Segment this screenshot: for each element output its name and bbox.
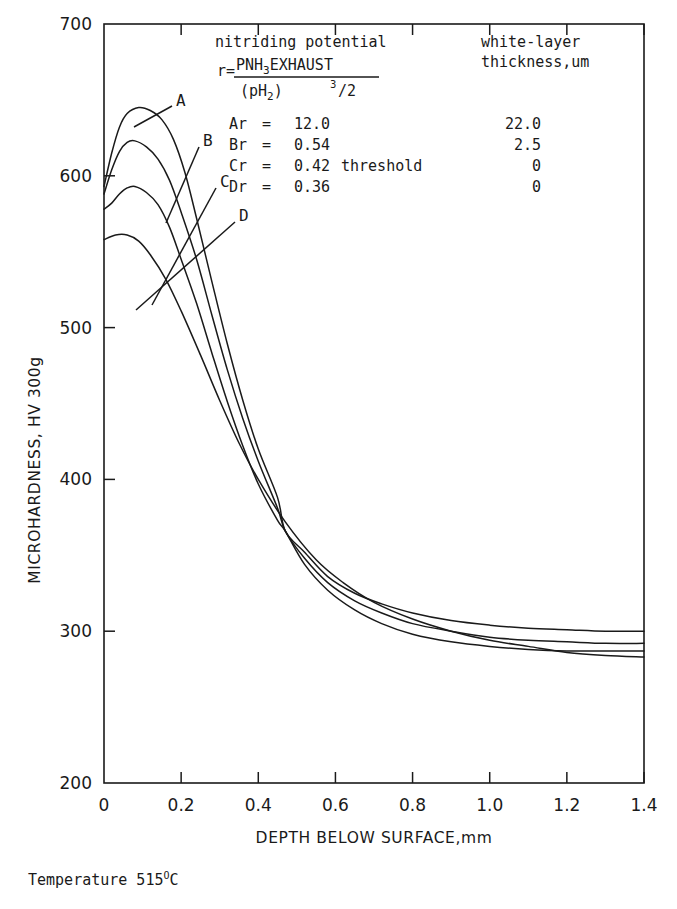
legend-row-name: Dr — [229, 178, 247, 196]
legend-row-equals: = — [262, 157, 271, 175]
curve-label-a: A — [176, 91, 186, 110]
chart-figure: 00.20.40.60.81.01.21.4 20030040050060070… — [0, 0, 677, 909]
y-tick-label: 300 — [60, 621, 92, 641]
microhardness-depth-chart: 00.20.40.60.81.01.21.4 20030040050060070… — [0, 0, 677, 909]
formula-numerator: PNH3EXHAUST — [236, 56, 333, 77]
legend-row-value: 12.0 — [294, 115, 330, 133]
formula-numerator-a: PNH — [236, 56, 263, 74]
chart-background — [0, 0, 677, 909]
legend-row-thickness: 0 — [532, 178, 541, 196]
curve-label-b: B — [203, 131, 213, 150]
formula-lhs: r= — [217, 62, 235, 80]
curve-label-d: D — [239, 206, 249, 225]
footnote-prefix: Temperature 515 — [28, 871, 163, 889]
legend-row-value: 0.54 — [294, 136, 330, 154]
y-axis-title: MICROHARDNESS, HV 300g — [26, 356, 44, 583]
y-tick-label: 500 — [60, 318, 92, 338]
formula-numerator-sub: 3 — [263, 64, 270, 77]
x-tick-label: 0.2 — [168, 795, 195, 815]
legend-row-value: 0.36 — [294, 178, 330, 196]
legend-row-name: Cr — [229, 157, 247, 175]
legend-header-right-line2: thickness,um — [481, 53, 589, 71]
x-tick-label: 0.4 — [245, 795, 272, 815]
legend-row-equals: = — [262, 178, 271, 196]
formula-exponent-divisor: /2 — [338, 82, 356, 100]
legend-row-thickness: 22.0 — [505, 115, 541, 133]
formula-denominator-a: (pH — [240, 82, 267, 100]
legend-row-note: threshold — [341, 157, 422, 175]
legend-row-thickness: 2.5 — [514, 136, 541, 154]
legend-header-right-line1: white-layer — [481, 33, 580, 51]
temperature-footnote: Temperature 515OC — [28, 870, 179, 889]
x-tick-label: 0.6 — [322, 795, 349, 815]
x-tick-label: 0 — [99, 795, 110, 815]
formula-exponent: 3 — [330, 79, 336, 90]
y-tick-label: 700 — [60, 14, 92, 34]
x-tick-label: 1.0 — [476, 795, 503, 815]
legend-row-name: Br — [229, 136, 247, 154]
footnote-suffix: C — [170, 871, 179, 889]
legend-row-equals: = — [262, 136, 271, 154]
y-tick-label: 600 — [60, 166, 92, 186]
y-tick-label: 400 — [60, 469, 92, 489]
legend-row-value: 0.42 — [294, 157, 330, 175]
legend-row-thickness: 0 — [532, 157, 541, 175]
x-axis-title: DEPTH BELOW SURFACE,mm — [256, 829, 493, 847]
legend-row-equals: = — [262, 115, 271, 133]
legend-header-left: nitriding potential — [215, 33, 387, 51]
x-tick-label: 1.2 — [553, 795, 580, 815]
x-tick-label: 0.8 — [399, 795, 426, 815]
formula-denominator: (pH2) — [240, 82, 283, 103]
formula-denominator-sub: 2 — [267, 90, 274, 103]
formula-denominator-b: ) — [274, 82, 283, 100]
x-tick-label: 1.4 — [630, 795, 657, 815]
legend-row-name: Ar — [229, 115, 247, 133]
formula-numerator-b: EXHAUST — [270, 56, 333, 74]
y-tick-label: 200 — [60, 773, 92, 793]
